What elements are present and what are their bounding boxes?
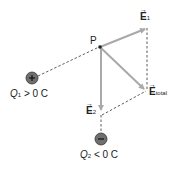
e1-vector-arrow <box>100 29 145 47</box>
point-p-dot <box>98 45 102 49</box>
e1-label: → E1 <box>140 12 150 23</box>
electric-field-superposition-diagram: P → E1 → Etotal → E2 Q1 > 0 C Q2 < 0 C <box>0 0 176 169</box>
q2-label: Q2 < 0 C <box>80 150 118 161</box>
etotal-vector-arrow <box>100 47 144 89</box>
q2-charge-icon <box>95 133 107 145</box>
point-p-label: P <box>90 36 97 46</box>
q1-charge-icon <box>26 72 38 84</box>
e2-label: → E2 <box>86 106 96 117</box>
etotal-label: → Etotal <box>149 87 167 98</box>
q1-label: Q1 > 0 C <box>10 89 48 100</box>
